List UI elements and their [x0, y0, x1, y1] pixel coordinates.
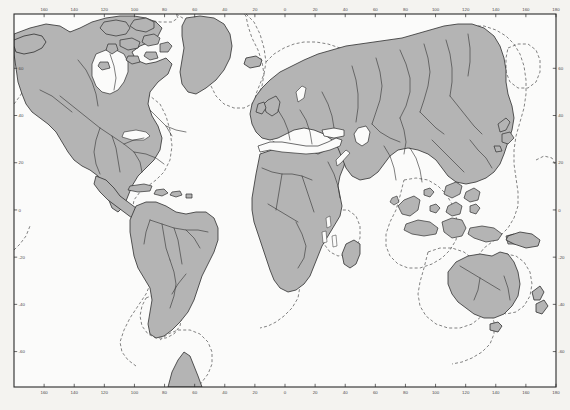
x-tick-label-top: 180 [552, 7, 560, 12]
y-tick-label-left: 20 [19, 160, 24, 165]
x-tick-label-bottom: 100 [131, 390, 139, 395]
x-tick-label-top: 80 [403, 7, 408, 12]
x-tick-label-top: 100 [131, 7, 139, 12]
x-tick-label-bottom: 100 [432, 390, 440, 395]
x-tick-label-top: 140 [492, 7, 500, 12]
y-tick-label-left: 40 [19, 113, 24, 118]
x-tick-label-top: 20 [252, 7, 257, 12]
water-black-sea [322, 128, 344, 138]
x-tick-label-top: 60 [373, 7, 378, 12]
x-tick-label-top: 20 [313, 7, 318, 12]
y-tick-label-left: -40 [19, 302, 26, 307]
x-tick-label-bottom: 160 [522, 390, 530, 395]
y-tick-label-right: -60 [558, 349, 565, 354]
y-tick-label-right: -40 [558, 302, 565, 307]
x-tick-label-bottom: 20 [313, 390, 318, 395]
x-tick-label-bottom: 160 [40, 390, 48, 395]
x-tick-label-bottom: 80 [162, 390, 167, 395]
y-tick-label-left: -20 [19, 255, 26, 260]
x-tick-label-top: 80 [162, 7, 167, 12]
x-tick-label-bottom: 140 [492, 390, 500, 395]
x-tick-label-top: 40 [222, 7, 227, 12]
x-tick-label-top: 160 [40, 7, 48, 12]
x-tick-label-top: 60 [192, 7, 197, 12]
y-tick-label-right: 60 [558, 66, 563, 71]
x-tick-label-bottom: 80 [403, 390, 408, 395]
x-tick-label-bottom: 60 [192, 390, 197, 395]
world-map-figure: 1601401201008060402002040608010012014016… [0, 0, 570, 410]
x-tick-label-bottom: 140 [71, 390, 79, 395]
x-tick-label-bottom: 40 [222, 390, 227, 395]
x-tick-label-bottom: 40 [343, 390, 348, 395]
y-tick-label-right: 40 [558, 113, 563, 118]
x-tick-label-top: 160 [522, 7, 530, 12]
x-tick-label-top: 40 [343, 7, 348, 12]
x-tick-label-bottom: 120 [101, 390, 109, 395]
x-tick-label-top: 120 [101, 7, 109, 12]
y-tick-label-right: -20 [558, 255, 565, 260]
x-tick-label-top: 100 [432, 7, 440, 12]
map-canvas: 1601401201008060402002040608010012014016… [0, 0, 570, 410]
land-iceland [244, 56, 262, 68]
y-tick-label-left: -60 [19, 349, 26, 354]
x-tick-label-bottom: 20 [252, 390, 257, 395]
y-tick-label-left: 60 [19, 66, 24, 71]
x-tick-label-top: 140 [71, 7, 79, 12]
x-tick-label-bottom: 120 [462, 390, 470, 395]
x-tick-label-bottom: 180 [552, 390, 560, 395]
x-tick-label-bottom: 60 [373, 390, 378, 395]
x-tick-label-top: 120 [462, 7, 470, 12]
y-tick-label-right: 20 [558, 160, 563, 165]
